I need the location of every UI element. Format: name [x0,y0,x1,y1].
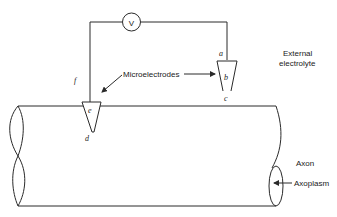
external-label-line1: External [283,49,313,58]
point-label-e: e [88,106,92,115]
axon-label: Axon [296,159,314,168]
point-label-b: b [224,73,228,82]
voltmeter-icon: V [123,13,141,31]
external-label-line2: electrolyte [279,59,316,68]
point-label-a: a [219,49,223,58]
arrow-to-left-electrode [102,75,122,92]
point-label-c: c [224,94,228,103]
microelectrodes-label: Microelectrodes [123,70,179,79]
voltmeter-symbol: V [129,19,135,28]
axon-microelectrode-diagram: V a b c d e f Microelectrodes External e… [0,0,337,217]
axoplasm-label: Axoplasm [294,179,329,188]
point-label-f: f [74,76,78,85]
axon-cylinder [10,106,283,206]
point-label-d: d [85,134,90,143]
circuit-wire [90,22,227,102]
